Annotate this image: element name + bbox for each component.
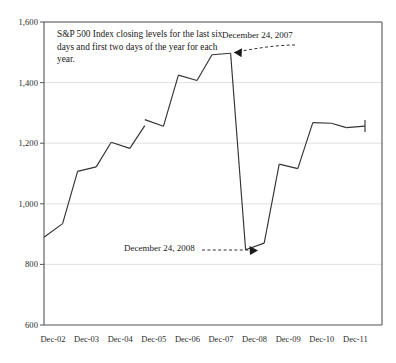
sp500-line-chart: S&P 500 Index closing levels for the las… xyxy=(0,0,396,363)
xtick-label-dec-11: Dec-11 xyxy=(332,334,378,344)
ytick-label-1200: 1,200 xyxy=(2,138,38,148)
ytick-label-1000: 1,000 xyxy=(2,199,38,209)
series-segment-dec-08 xyxy=(246,243,265,250)
ytick-label-1600: 1,600 xyxy=(2,17,38,27)
ytick-label-1400: 1,400 xyxy=(2,78,38,88)
series-segment-dec-05 xyxy=(145,120,164,127)
annotation-arrow-2007 xyxy=(234,45,295,53)
connector-09-10 xyxy=(298,123,313,169)
chart-title: S&P 500 Index closing levels for the las… xyxy=(57,28,237,66)
series-segment-dec-11 xyxy=(346,126,365,128)
connector-03-04 xyxy=(96,142,111,167)
series-segment-dec-09 xyxy=(279,164,298,169)
series-segment-dec-10 xyxy=(313,123,332,124)
ytick-label-800: 800 xyxy=(2,259,38,269)
annotation-label-december-24-2007: December 24, 2007 xyxy=(222,30,293,40)
connector-04-05 xyxy=(130,126,145,149)
ytick-label-600: 600 xyxy=(2,320,38,330)
connector-02-03 xyxy=(63,171,78,223)
plot-frame xyxy=(44,22,382,325)
annotation-label-december-24-2008: December 24, 2008 xyxy=(124,243,195,253)
series-segment-dec-02 xyxy=(44,224,63,238)
y-tick-marks xyxy=(40,22,44,325)
series-segment-dec-03 xyxy=(78,167,97,172)
connector-10-11 xyxy=(331,123,346,127)
series-segment-dec-06 xyxy=(178,75,197,80)
